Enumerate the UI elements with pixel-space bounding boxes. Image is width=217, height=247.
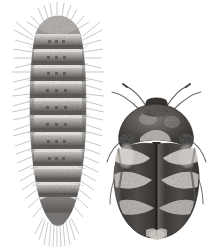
illustration-plate: Carpet beetle larva Adult carpet beetle — [0, 0, 217, 247]
beetle-elytral-apex — [149, 230, 165, 240]
plate-canvas: Carpet beetle larva Adult carpet beetle — [0, 0, 217, 247]
